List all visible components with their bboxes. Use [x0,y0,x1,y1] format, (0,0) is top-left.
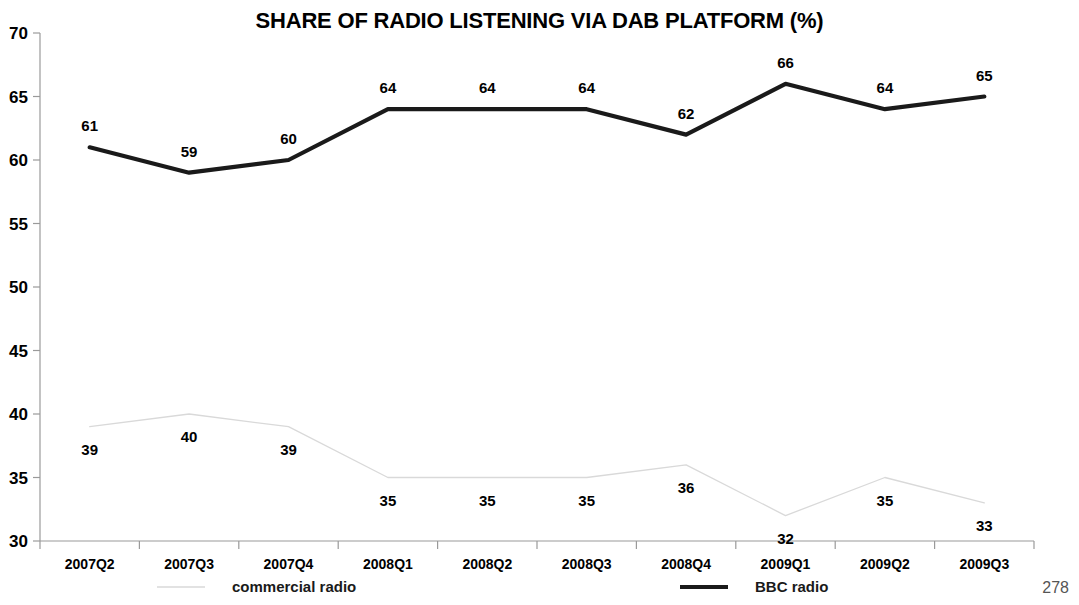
x-axis-tick-label: 2007Q2 [65,556,115,572]
data-point-label: 60 [280,130,297,147]
x-axis-tick-label: 2008Q1 [363,556,413,572]
data-point-label: 64 [479,79,496,96]
data-point-label: 35 [578,492,595,509]
data-point-label: 35 [380,492,397,509]
chart-container: SHARE OF RADIO LISTENING VIA DAB PLATFOR… [0,0,1079,605]
data-point-label: 65 [976,67,993,84]
y-axis-tick-label: 50 [9,278,28,297]
y-axis-tick-label: 65 [9,88,28,107]
chart-legend: commercial radioBBC radio [157,578,828,595]
y-axis: 303540455055606570 [9,24,40,551]
data-point-label: 35 [877,492,894,509]
data-point-label: 64 [877,79,894,96]
data-series-group [90,84,985,516]
y-axis-tick-label: 40 [9,405,28,424]
data-point-label: 33 [976,517,993,534]
data-labels-group: 3940393535353632353361596064646462666465 [81,54,992,547]
y-axis-tick-label: 60 [9,151,28,170]
y-axis-tick-label: 70 [9,24,28,43]
data-point-label: 39 [81,441,98,458]
y-axis-tick-label: 35 [9,469,28,488]
x-axis-tick-label: 2009Q3 [959,556,1009,572]
data-point-label: 39 [280,441,297,458]
x-axis-tick-label: 2007Q3 [164,556,214,572]
x-axis-tick-label: 2008Q3 [562,556,612,572]
series-line [90,84,985,173]
line-chart-plot: 303540455055606570 2007Q22007Q32007Q4200… [0,0,1079,605]
x-axis-tick-label: 2008Q2 [462,556,512,572]
data-point-label: 59 [181,143,198,160]
x-axis-tick-label: 2009Q1 [761,556,811,572]
data-point-label: 64 [380,79,397,96]
data-point-label: 40 [181,428,198,445]
y-axis-tick-label: 45 [9,342,28,361]
data-point-label: 61 [81,117,98,134]
data-point-label: 35 [479,492,496,509]
y-axis-tick-label: 30 [9,532,28,551]
x-axis: 2007Q22007Q32007Q42008Q12008Q22008Q32008… [40,541,1034,572]
series-line [90,414,985,516]
x-axis-tick-label: 2007Q4 [264,556,314,572]
y-axis-tick-label: 55 [9,215,28,234]
data-point-label: 62 [678,105,695,122]
legend-label: BBC radio [755,578,828,595]
page-number: 278 [1042,579,1069,597]
x-axis-tick-label: 2008Q4 [661,556,711,572]
data-point-label: 36 [678,479,695,496]
x-axis-tick-label: 2009Q2 [860,556,910,572]
legend-label: commercial radio [232,578,356,595]
data-point-label: 32 [777,530,794,547]
data-point-label: 64 [578,79,595,96]
data-point-label: 66 [777,54,794,71]
